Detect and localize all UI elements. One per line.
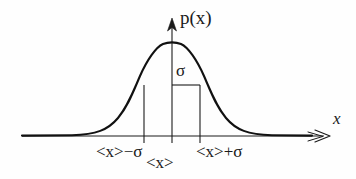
gaussian-distribution-diagram <box>0 0 356 179</box>
sigma-annotation-label: σ <box>176 62 185 79</box>
y-axis-label: p(x) <box>180 8 212 27</box>
figure-canvas: p(x) x σ <x>−σ <x> <x>+σ <box>0 0 356 179</box>
tick-label-plus-sigma: <x>+σ <box>196 143 242 160</box>
gaussian-curve <box>22 42 312 135</box>
tick-label-mean: <x> <box>146 154 174 171</box>
x-axis-label: x <box>333 110 341 127</box>
tick-label-minus-sigma: <x>−σ <box>96 143 142 160</box>
